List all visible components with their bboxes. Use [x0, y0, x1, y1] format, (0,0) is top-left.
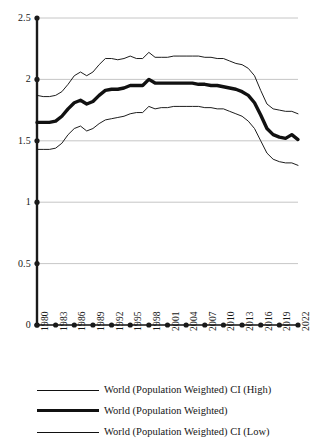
x-axis-tick-marker: [34, 322, 39, 327]
chart-plot-area: [0, 0, 315, 446]
x-axis-tick-marker: [202, 322, 207, 327]
y-axis-tick-marker: [34, 138, 39, 143]
x-axis-tick-marker: [53, 322, 58, 327]
x-axis-tick-markers: [34, 322, 300, 327]
y-axis-tick-label: 1.5: [0, 136, 31, 146]
y-axis-tick-label: 2: [0, 74, 31, 84]
legend-item-ci-low[interactable]: World (Population Weighted) CI (Low): [0, 424, 315, 445]
x-axis-tick-label: 2007: [209, 311, 219, 331]
x-axis-tick-label: 1986: [78, 311, 88, 331]
y-axis-tick-label: 0.5: [0, 259, 31, 269]
y-axis-tick-marker: [34, 77, 39, 82]
x-axis-tick-marker: [165, 322, 170, 327]
data-series-layer: [37, 52, 298, 165]
x-axis-tick-marker: [258, 322, 263, 327]
x-axis-tick-label: 2022: [302, 311, 312, 331]
x-axis-tick-label: 2013: [246, 311, 256, 331]
x-axis-tick-marker: [90, 322, 95, 327]
legend-label-main: World (Population Weighted): [104, 405, 228, 417]
y-axis-tick-label: 0: [0, 320, 31, 330]
axes: [37, 18, 298, 325]
legend-item-main[interactable]: World (Population Weighted): [0, 403, 315, 424]
legend-label-ci-low: World (Population Weighted) CI (Low): [104, 426, 270, 438]
y-axis-tick-label: 2.5: [0, 13, 31, 23]
x-axis-tick-marker: [184, 322, 189, 327]
x-axis-tick-marker: [239, 322, 244, 327]
legend-swatch-ci-high: [37, 390, 99, 391]
x-axis-tick-label: 1995: [134, 311, 144, 331]
y-axis-tick-label: 1: [0, 197, 31, 207]
x-axis-tick-label: 2010: [227, 311, 237, 331]
x-axis-tick-label: 2004: [190, 311, 200, 331]
chart-legend: World (Population Weighted) CI (High) Wo…: [0, 382, 315, 445]
y-axis-tick-marker: [34, 200, 39, 205]
x-axis-tick-label: 1992: [116, 311, 126, 331]
x-axis-tick-label: 1983: [60, 311, 70, 331]
x-axis-tick-label: 2001: [172, 311, 182, 331]
chart-figure: 00.511.522.5 198019831986198919921995199…: [0, 0, 315, 446]
legend-swatch-main: [37, 409, 99, 412]
x-axis-tick-label: 1980: [41, 311, 51, 331]
y-axis-tick-marker: [34, 15, 39, 20]
legend-item-ci-high[interactable]: World (Population Weighted) CI (High): [0, 382, 315, 403]
x-axis-tick-marker: [146, 322, 151, 327]
series-line-ci-low: [37, 106, 298, 165]
x-axis-tick-label: 2019: [283, 311, 293, 331]
legend-label-ci-high: World (Population Weighted) CI (High): [104, 384, 271, 396]
x-axis-tick-label: 1998: [153, 311, 163, 331]
x-axis-tick-marker: [109, 322, 114, 327]
x-axis-tick-marker: [295, 322, 300, 327]
legend-swatch-ci-low: [37, 432, 99, 433]
gridlines: [37, 18, 298, 325]
series-line-main: [37, 79, 298, 139]
x-axis-tick-label: 2016: [265, 311, 275, 331]
x-axis-tick-label: 1989: [97, 311, 107, 331]
y-axis-tick-marker: [34, 261, 39, 266]
